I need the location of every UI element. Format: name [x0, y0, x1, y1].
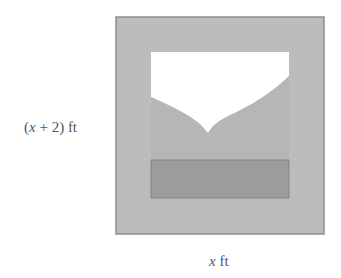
- height-label-variable: x: [29, 119, 36, 135]
- height-label-rest: + 2) ft: [36, 119, 77, 135]
- ground-band: [151, 160, 289, 198]
- height-label: (x + 2) ft: [24, 119, 77, 136]
- width-label-rest: ft: [216, 253, 229, 269]
- framed-picture-diagram: [0, 0, 341, 278]
- width-label: x ft: [209, 253, 229, 270]
- width-label-variable: x: [209, 253, 216, 269]
